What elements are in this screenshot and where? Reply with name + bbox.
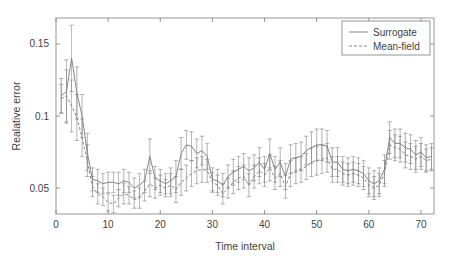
legend-label-0: Surrogate (373, 27, 417, 38)
x-tick-label-6: 60 (363, 219, 375, 230)
x-tick-label-7: 70 (415, 219, 427, 230)
x-tick-label-5: 50 (311, 219, 323, 230)
legend: SurrogateMean-field (342, 21, 430, 55)
x-tick-label-2: 20 (155, 219, 167, 230)
y-tick-label-1: 0.1 (35, 111, 49, 122)
x-tick-label-0: 0 (53, 219, 59, 230)
figure-container: 0102030405060700.050.10.15Time intervalR… (0, 0, 452, 258)
relative-error-line-chart: 0102030405060700.050.10.15Time intervalR… (0, 0, 452, 258)
y-tick-label-0: 0.05 (30, 183, 50, 194)
y-axis-title: Realative error (10, 81, 22, 150)
y-tick-label-2: 0.15 (30, 38, 50, 49)
x-axis-title: Time interval (215, 240, 275, 252)
legend-label-1: Mean-field (373, 41, 420, 52)
x-tick-label-4: 40 (259, 219, 271, 230)
x-tick-label-3: 30 (207, 219, 219, 230)
x-tick-label-1: 10 (103, 219, 115, 230)
